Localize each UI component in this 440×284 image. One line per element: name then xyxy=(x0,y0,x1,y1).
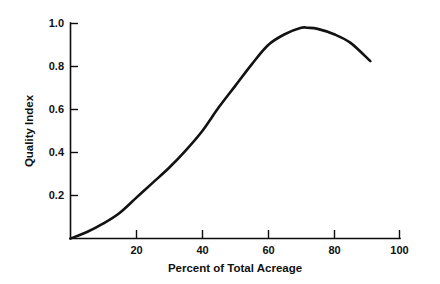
y-tick-label-0_2: 0.2 xyxy=(49,189,64,201)
x-tick-label-20: 20 xyxy=(130,244,142,256)
x-tick-label-40: 40 xyxy=(196,244,208,256)
y-tick-label-0_4: 0.4 xyxy=(49,146,65,158)
x-tick-label-80: 80 xyxy=(328,244,340,256)
chart-background xyxy=(0,0,440,284)
chart-page: 1.0 0.8 0.6 0.4 0.2 20 40 60 80 100 Perc… xyxy=(0,0,440,284)
x-tick-label-60: 60 xyxy=(262,244,274,256)
y-axis-title: Quality Index xyxy=(23,94,35,167)
x-axis-title: Percent of Total Acreage xyxy=(168,262,302,274)
quality-index-chart: 1.0 0.8 0.6 0.4 0.2 20 40 60 80 100 Perc… xyxy=(0,0,440,284)
y-tick-label-1_0: 1.0 xyxy=(49,17,64,29)
y-tick-label-0_6: 0.6 xyxy=(49,103,64,115)
x-tick-label-100: 100 xyxy=(390,244,408,256)
y-tick-label-0_8: 0.8 xyxy=(49,60,64,72)
